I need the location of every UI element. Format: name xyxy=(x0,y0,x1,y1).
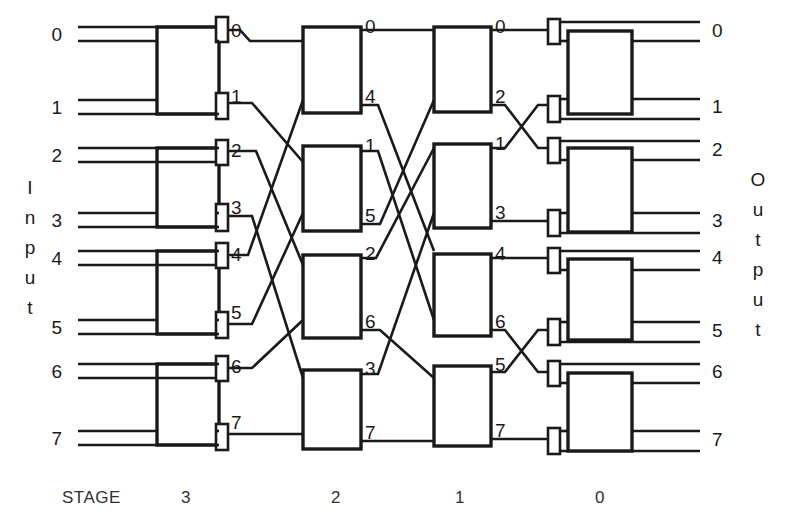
input-axis-letter: p xyxy=(25,237,36,258)
stage1-output-label: 3 xyxy=(495,202,506,223)
input-wires xyxy=(78,27,157,445)
stage1-output-label: 7 xyxy=(495,420,506,441)
stage2-output-label: 2 xyxy=(365,243,376,264)
input-label: 0 xyxy=(51,24,62,45)
input-label: 7 xyxy=(51,428,62,449)
switch-box[interactable] xyxy=(568,259,632,340)
terminal[interactable] xyxy=(548,248,560,273)
stage1-output-label: 2 xyxy=(495,86,506,107)
switch-box[interactable] xyxy=(568,31,632,114)
stage3-terminal-label: 0 xyxy=(231,20,242,41)
terminal[interactable] xyxy=(548,138,560,163)
input-axis-letter: u xyxy=(25,267,36,288)
stage3-terminal-label: 2 xyxy=(231,140,242,161)
terminal[interactable] xyxy=(548,210,560,236)
stage-1-boxes xyxy=(434,27,491,446)
switch-box[interactable] xyxy=(434,27,491,112)
stage2-output-label: 0 xyxy=(365,16,376,37)
input-label: 4 xyxy=(51,248,62,269)
stage3-terminal-label: 6 xyxy=(231,356,242,377)
stage2-output-label: 3 xyxy=(365,358,376,379)
input-labels: 0 1 2 3 4 5 6 7 xyxy=(51,24,62,449)
switch-box[interactable] xyxy=(303,27,361,113)
output-label: 5 xyxy=(712,320,723,341)
output-axis-letter: u xyxy=(753,199,764,220)
stage1-output-label: 5 xyxy=(495,354,506,375)
stage1-output-label: 4 xyxy=(495,243,506,264)
input-label: 2 xyxy=(51,145,62,166)
switch-box[interactable] xyxy=(303,255,361,338)
output-label: 6 xyxy=(712,361,723,382)
terminal[interactable] xyxy=(216,243,228,268)
stage-number-label: 3 xyxy=(181,488,191,507)
stage-0-boxes xyxy=(568,31,632,451)
input-axis-letter: t xyxy=(27,297,33,318)
switch-box[interactable] xyxy=(568,373,632,451)
stage-word-label: STAGE xyxy=(62,488,121,507)
stage3-terminal-label: 1 xyxy=(231,86,242,107)
output-label: 0 xyxy=(712,20,723,41)
input-label: 3 xyxy=(51,210,62,231)
switch-box[interactable] xyxy=(157,148,219,227)
output-label: 7 xyxy=(712,429,723,450)
switch-box[interactable] xyxy=(434,254,491,336)
stage-3-boxes xyxy=(157,27,219,445)
output-axis-label: O u t p u t xyxy=(751,169,766,340)
input-label: 6 xyxy=(51,361,62,382)
output-labels: 0 1 2 3 4 5 6 7 xyxy=(712,20,723,450)
switch-box[interactable] xyxy=(568,148,632,232)
terminal[interactable] xyxy=(548,361,560,386)
switch-box[interactable] xyxy=(157,364,219,445)
terminal[interactable] xyxy=(548,428,560,454)
switch-box[interactable] xyxy=(303,146,361,231)
switch-box[interactable] xyxy=(434,366,491,446)
output-axis-letter: u xyxy=(753,289,764,310)
network-svg: 0 1 2 3 4 5 6 7 0 1 2 3 4 5 6 7 0 1 2 3 … xyxy=(0,0,788,528)
stage2-output-label: 1 xyxy=(365,135,376,156)
output-axis-letter: O xyxy=(751,169,766,190)
stage-3-terminal-labels: 0 1 2 3 4 5 6 7 xyxy=(231,20,242,433)
stage3-terminal-label: 4 xyxy=(231,244,242,265)
input-label: 1 xyxy=(51,97,62,118)
stage-1-output-labels: 0 2 1 3 4 6 5 7 xyxy=(495,16,506,441)
network-diagram: 0 1 2 3 4 5 6 7 0 1 2 3 4 5 6 7 0 1 2 3 … xyxy=(0,0,788,528)
terminal[interactable] xyxy=(216,140,228,165)
terminal[interactable] xyxy=(216,17,228,42)
stage2-output-label: 6 xyxy=(365,311,376,332)
stage-number-label: 2 xyxy=(331,488,341,507)
stage-2-output-labels: 0 4 1 5 2 6 3 7 xyxy=(365,16,376,443)
terminal[interactable] xyxy=(548,19,560,44)
output-label: 1 xyxy=(712,96,723,117)
stage2-output-label: 7 xyxy=(365,422,376,443)
stage1-output-label: 1 xyxy=(495,133,506,154)
input-axis-label: I n p u t xyxy=(25,177,36,318)
stage-2-boxes xyxy=(303,27,361,449)
switch-box[interactable] xyxy=(157,27,219,114)
stage2-output-label: 4 xyxy=(365,86,376,107)
stage3-terminal-label: 5 xyxy=(231,302,242,323)
stage-number-label: 1 xyxy=(455,488,465,507)
stage3-terminal-label: 7 xyxy=(231,412,242,433)
stage1-output-label: 0 xyxy=(495,16,506,37)
stage2-output-label: 5 xyxy=(365,205,376,226)
output-axis-letter: p xyxy=(753,259,764,280)
output-label: 3 xyxy=(712,210,723,231)
stage1-output-label: 6 xyxy=(495,311,506,332)
switch-box[interactable] xyxy=(157,251,219,334)
input-label: 5 xyxy=(51,317,62,338)
output-axis-letter: t xyxy=(755,319,761,340)
terminal[interactable] xyxy=(548,96,560,122)
stage3-terminal-label: 3 xyxy=(231,197,242,218)
switch-box[interactable] xyxy=(303,370,361,449)
output-wires xyxy=(632,22,700,451)
output-label: 4 xyxy=(712,247,723,268)
terminal[interactable] xyxy=(216,356,228,381)
output-label: 2 xyxy=(712,139,723,160)
output-axis-letter: t xyxy=(755,229,761,250)
input-axis-letter: n xyxy=(25,207,36,228)
terminal[interactable] xyxy=(548,319,560,345)
switch-box[interactable] xyxy=(434,144,491,228)
stage-number-label: 0 xyxy=(595,488,605,507)
stage-0-terminals xyxy=(548,19,560,454)
stage-footer: STAGE 3 2 1 0 xyxy=(62,488,605,507)
